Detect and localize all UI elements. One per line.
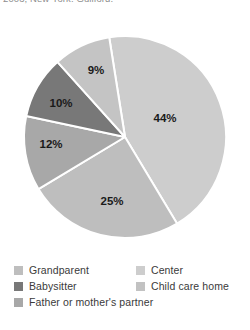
pie-slice-label: 25% bbox=[100, 195, 123, 207]
legend-row: GrandparentCenter bbox=[0, 262, 250, 278]
citation-strip: 2003, New York: Guilford. · · bbox=[0, 0, 250, 9]
legend-row: BabysitterChild care home bbox=[0, 278, 250, 294]
citation-edge-marks: · · bbox=[226, 0, 247, 4]
legend-item-label: Babysitter bbox=[29, 280, 77, 292]
legend-item-label: Center bbox=[151, 264, 183, 276]
legend-item[interactable]: Father or mother's partner bbox=[14, 294, 153, 310]
legend-swatch-icon bbox=[14, 298, 23, 307]
legend-item-label: Grandparent bbox=[29, 264, 89, 276]
legend-row: Father or mother's partner bbox=[0, 294, 250, 310]
pie-slice-label: 9% bbox=[88, 64, 105, 76]
legend-item-label: Father or mother's partner bbox=[29, 296, 153, 308]
pie-slice-label: 44% bbox=[153, 112, 176, 124]
legend-item[interactable]: Grandparent bbox=[14, 262, 89, 278]
pie-slice-label: 12% bbox=[39, 138, 62, 150]
legend-item-label: Child care home bbox=[151, 280, 229, 292]
chart-legend: GrandparentCenterBabysitterChild care ho… bbox=[0, 262, 250, 312]
pie-chart-figure: 44%25%12%10%9% bbox=[0, 14, 250, 258]
legend-swatch-icon bbox=[14, 282, 23, 291]
legend-swatch-icon bbox=[14, 266, 23, 275]
citation-text: 2003, New York: Guilford. bbox=[3, 0, 113, 4]
pie-slice-group bbox=[24, 36, 226, 238]
legend-swatch-icon bbox=[136, 266, 145, 275]
legend-swatch-icon bbox=[136, 282, 145, 291]
pie-chart-svg: 44%25%12%10%9% bbox=[0, 14, 250, 258]
legend-item[interactable]: Child care home bbox=[136, 278, 229, 294]
legend-item[interactable]: Babysitter bbox=[14, 278, 77, 294]
pie-slice-label: 10% bbox=[49, 97, 72, 109]
legend-item[interactable]: Center bbox=[136, 262, 183, 278]
